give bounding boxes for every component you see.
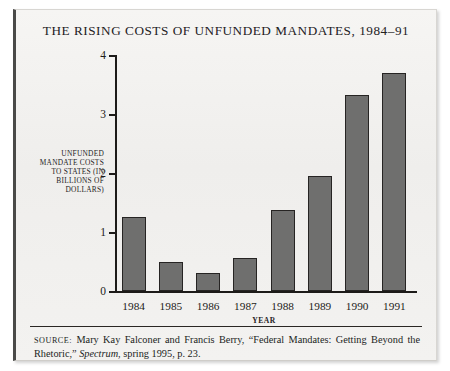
plot-area: 01234 19841985198619871988198919901991 xyxy=(115,55,413,293)
figure-panel: THE RISING COSTS OF UNFUNDED MANDATES, 1… xyxy=(13,9,437,361)
x-axis-tick-label: 1991 xyxy=(383,300,406,312)
y-axis-tick xyxy=(109,114,115,116)
y-axis-tick xyxy=(109,173,115,175)
x-axis-tick-label: 1989 xyxy=(309,300,332,312)
y-axis-tick-label: 4 xyxy=(100,49,106,61)
chart-title: THE RISING COSTS OF UNFUNDED MANDATES, 1… xyxy=(16,23,436,39)
source-label: SOURCE: xyxy=(34,336,72,345)
source-note: SOURCE: Mary Kay Falconer and Francis Be… xyxy=(34,334,420,360)
x-axis-tick-label: 1990 xyxy=(346,300,369,312)
y-axis-title: UNFUNDED MANDATE COSTS TO STATES (IN BIL… xyxy=(38,149,104,194)
source-publication: Spectrum xyxy=(79,348,118,359)
bar xyxy=(345,95,369,291)
y-axis-tick-label: 2 xyxy=(100,167,106,179)
bar xyxy=(159,262,183,291)
x-axis-tick-label: 1988 xyxy=(271,300,294,312)
x-axis-tick-label: 1986 xyxy=(197,300,220,312)
y-axis-tick xyxy=(109,232,115,234)
y-axis-tick-label: 3 xyxy=(100,108,106,120)
y-axis-line xyxy=(115,55,117,293)
source-text-part2: , spring 1995, p. 23. xyxy=(118,348,200,359)
y-axis-tick xyxy=(109,291,115,293)
x-axis-tick-label: 1987 xyxy=(234,300,257,312)
bar xyxy=(382,73,406,291)
bar xyxy=(233,258,257,291)
y-axis-tick-label: 0 xyxy=(100,285,106,297)
x-axis-line xyxy=(115,291,417,293)
x-axis-title: YEAR xyxy=(115,316,413,325)
bar xyxy=(196,273,220,291)
bar xyxy=(122,217,146,291)
bar xyxy=(308,176,332,291)
source-divider xyxy=(30,326,422,327)
y-axis-tick-label: 1 xyxy=(100,226,106,238)
x-axis-tick-label: 1985 xyxy=(160,300,183,312)
y-axis-tick xyxy=(109,55,115,57)
bar xyxy=(271,210,295,291)
x-axis-tick-label: 1984 xyxy=(122,300,145,312)
